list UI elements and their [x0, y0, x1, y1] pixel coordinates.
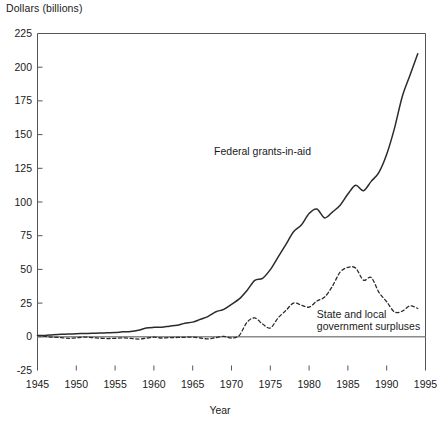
- x-tick-label: 1995: [406, 379, 440, 390]
- y-tick-label: 225: [2, 28, 32, 39]
- y-tick-label: 150: [2, 129, 32, 140]
- annotation-label: Federal grants-in-aid: [214, 145, 311, 157]
- x-tick-label: 1950: [56, 379, 96, 390]
- series-line-0: [38, 54, 418, 336]
- y-tick-label: -25: [2, 365, 32, 376]
- x-tick-label: 1965: [173, 379, 213, 390]
- y-tick-label: 200: [2, 62, 32, 73]
- y-tick-label: 100: [2, 197, 32, 208]
- x-tick-label: 1975: [250, 379, 290, 390]
- y-tick-label: 50: [2, 264, 32, 275]
- annotation-label: government surpluses: [317, 320, 420, 332]
- plot-area: [0, 0, 440, 427]
- y-tick-label: 75: [2, 230, 32, 241]
- y-tick-label: 0: [2, 331, 32, 342]
- y-tick-label: 125: [2, 163, 32, 174]
- y-tick-label: 175: [2, 95, 32, 106]
- x-tick-label: 1955: [95, 379, 135, 390]
- x-tick-label: 1945: [18, 379, 58, 390]
- x-tick-label: 1985: [328, 379, 368, 390]
- y-tick-label: 25: [2, 298, 32, 309]
- x-tick-label: 1970: [212, 379, 252, 390]
- annotation-label: State and local: [317, 308, 386, 320]
- x-tick-label: 1980: [289, 379, 329, 390]
- chart-container: Dollars (billions) Year -250255075100125…: [0, 0, 440, 427]
- x-tick-label: 1990: [367, 379, 407, 390]
- x-tick-label: 1960: [134, 379, 174, 390]
- data-series: [38, 54, 418, 339]
